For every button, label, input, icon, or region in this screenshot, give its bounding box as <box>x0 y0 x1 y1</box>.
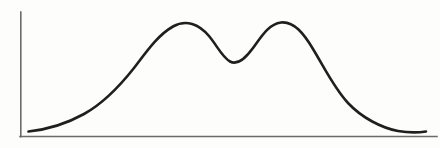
chart-canvas <box>0 0 440 148</box>
distribution-chart-figure <box>0 0 440 148</box>
bimodal-distribution-curve <box>29 22 427 132</box>
